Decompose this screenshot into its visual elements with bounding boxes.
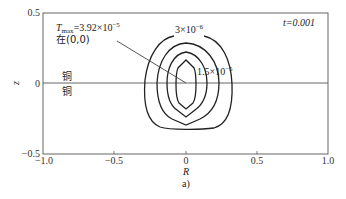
x-tick-neg1.0: −1.0: [35, 155, 53, 166]
contour-level-2: [157, 43, 219, 125]
x-tick-neg0.5: −0.5: [105, 155, 123, 166]
y-tick-0: 0: [35, 78, 40, 89]
x-tick-1.0: 1.0: [322, 155, 335, 166]
y-tick-0.5: 0.5: [28, 7, 41, 18]
outer-contour-exponent: −6: [196, 23, 204, 31]
time-label: t=0.001: [283, 17, 315, 28]
tmax-leader-line: [117, 41, 186, 83]
tmax-annotation: Tmax=3.92×10−5: [56, 21, 120, 35]
inner-contour-label: 1.5×10−5: [197, 65, 233, 77]
y-axis-label: z: [10, 81, 21, 86]
inner-contour-mantissa: 1.5×10: [197, 66, 225, 77]
outer-contour-mantissa: 3×10: [175, 24, 196, 35]
tmax-location: 在(0,0): [56, 34, 90, 45]
outer-contour-label: 3×10−6: [175, 23, 204, 35]
tmax-exponent: −5: [112, 21, 120, 29]
x-tick-0.5: 0.5: [251, 155, 264, 166]
inner-contour-exponent: −5: [225, 65, 233, 73]
region-label-upper: 铜: [62, 71, 72, 82]
x-axis-label: R: [182, 166, 189, 177]
contour-chart: 0.5 0 −0.5 −1.0 −0.5 0 0.5 1.0 R z a) t=…: [0, 0, 346, 199]
region-label-lower: 铜: [62, 86, 72, 97]
x-tick-0: 0: [184, 155, 189, 166]
contour-1.5e-5: [176, 60, 196, 109]
tmax-value: =3.92×10: [74, 22, 113, 33]
subfigure-label: a): [182, 178, 190, 190]
